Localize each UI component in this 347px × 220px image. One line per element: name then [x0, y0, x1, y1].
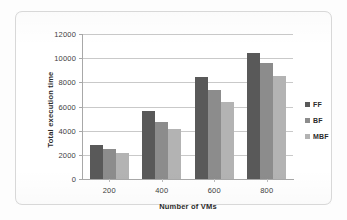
bar-ff-400 [142, 111, 155, 179]
x-tick-mark [267, 179, 268, 182]
bar-bf-400 [155, 122, 168, 179]
x-axis-ticks: 200400600800 [83, 179, 293, 199]
y-axis-label: 10000 [54, 54, 76, 63]
x-axis-label: 600 [188, 186, 241, 195]
x-tick-mark [109, 179, 110, 182]
x-tick-mark [214, 179, 215, 182]
bar-mbf-600 [221, 102, 234, 179]
y-axis-label: 0 [72, 175, 76, 184]
bar-mbf-400 [168, 129, 181, 179]
x-tick-mark [162, 179, 163, 182]
x-tick: 600 [188, 179, 241, 199]
y-axis-label: 2000 [59, 150, 77, 159]
bar-ff-600 [195, 77, 208, 179]
chart-frame: Total execution time 0200040006000800010… [15, 11, 332, 205]
x-tick: 200 [83, 179, 136, 199]
bar-ff-200 [90, 145, 103, 179]
x-axis-title: Number of VMs [83, 202, 293, 211]
y-axis-title: Total execution time [44, 62, 58, 157]
bar-group [241, 34, 294, 179]
bar-mbf-200 [116, 153, 129, 179]
y-axis-label: 12000 [54, 30, 76, 39]
bar-group [83, 34, 136, 179]
legend-item-bf: BF [305, 117, 329, 124]
bar-bf-200 [103, 149, 116, 179]
legend-label-mbf: MBF [313, 133, 329, 140]
bar-ff-800 [247, 53, 260, 179]
x-axis-label: 800 [241, 186, 294, 195]
legend: FFBFMBF [305, 101, 329, 140]
plot-area: 020004000600080001000012000 200400600800 [83, 34, 293, 179]
legend-label-ff: FF [313, 101, 322, 108]
bar-groups [83, 34, 293, 179]
bar-bf-600 [208, 90, 221, 179]
x-tick: 800 [241, 179, 294, 199]
x-axis-label: 200 [83, 186, 136, 195]
bar-group [136, 34, 189, 179]
x-axis-label: 400 [136, 186, 189, 195]
legend-swatch-mbf [305, 134, 310, 139]
chart-figure: Total execution time 0200040006000800010… [0, 0, 347, 220]
legend-label-bf: BF [313, 117, 323, 124]
legend-item-ff: FF [305, 101, 329, 108]
legend-item-mbf: MBF [305, 133, 329, 140]
y-axis-label: 6000 [59, 102, 77, 111]
bar-bf-800 [260, 63, 273, 179]
legend-swatch-ff [305, 102, 310, 107]
x-tick: 400 [136, 179, 189, 199]
y-axis-label: 4000 [59, 126, 77, 135]
y-axis-title-text: Total execution time [47, 72, 56, 148]
legend-swatch-bf [305, 118, 310, 123]
bar-group [188, 34, 241, 179]
y-axis-label: 8000 [59, 78, 77, 87]
bar-mbf-800 [273, 76, 286, 179]
